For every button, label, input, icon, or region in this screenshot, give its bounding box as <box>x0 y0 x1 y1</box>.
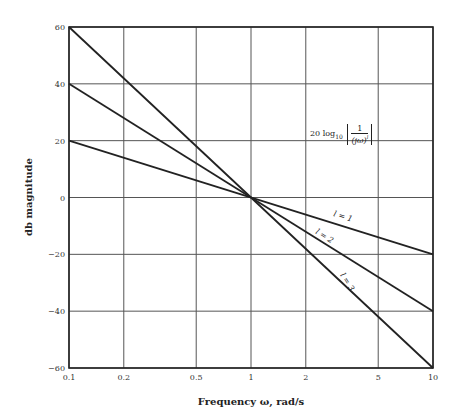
formula-numerator: 1 <box>351 124 368 134</box>
x-tick-label: 0.2 <box>117 373 130 382</box>
x-tick-labels: 0.10.20.512510 <box>63 373 438 382</box>
x-axis-label: Frequency ω, rad/s <box>198 396 305 408</box>
formula-prefix: 20 log <box>310 129 335 138</box>
formula-exponent: l <box>367 134 369 140</box>
x-tick-label: 10 <box>428 373 438 382</box>
x-tick-label: 5 <box>376 373 381 382</box>
y-tick-label: 60 <box>55 23 65 32</box>
y-tick-label: 0 <box>60 194 65 203</box>
formula-subscript: 10 <box>335 133 343 140</box>
x-tick-label: 2 <box>303 373 308 382</box>
y-tick-label: −20 <box>48 250 65 259</box>
series-label-l1: l = 1 <box>332 209 353 223</box>
y-tick-labels: 6040200−20−40−60 <box>48 23 65 373</box>
y-tick-label: 40 <box>55 80 65 89</box>
y-tick-label: −60 <box>48 364 65 373</box>
x-tick-label: 0.5 <box>190 373 203 382</box>
x-tick-label: 0.1 <box>63 373 76 382</box>
formula-denominator: (jω) <box>351 136 366 145</box>
y-axis-label: db magnitude <box>23 158 34 236</box>
y-tick-label: 20 <box>55 137 65 146</box>
x-tick-label: 1 <box>248 373 253 382</box>
bode-magnitude-chart: 0.10.20.512510 6040200−20−40−60 Frequenc… <box>0 0 458 418</box>
formula-annotation: 20 log10 1 (jω)l <box>310 124 372 145</box>
y-tick-label: −40 <box>48 307 65 316</box>
